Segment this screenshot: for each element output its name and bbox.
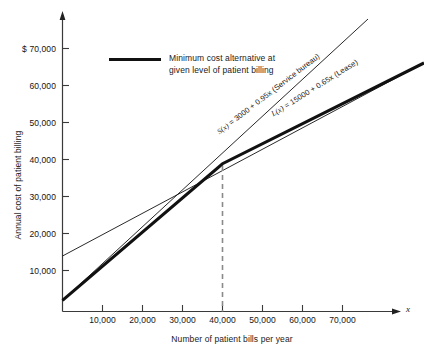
y-axis-ticks	[63, 49, 70, 271]
series-line-minimum-cost	[63, 63, 424, 300]
x-axis-arrowhead	[392, 309, 401, 315]
x-axis-variable-label: x	[406, 304, 410, 314]
x-tick-label: 50,000	[249, 315, 276, 325]
x-axis-title: Number of patient bills per year	[62, 334, 402, 344]
y-tick-label: 20,000	[0, 229, 56, 239]
y-tick-label: 10,000	[0, 266, 56, 276]
chart-legend: Minimum cost alternative at given level …	[109, 53, 275, 76]
x-tick-label: 20,000	[129, 315, 156, 325]
y-tick-label: 60,000	[0, 81, 56, 91]
y-tick-label: 40,000	[0, 155, 56, 165]
x-tick-label: 70,000	[329, 315, 356, 325]
x-tick-label: 10,000	[89, 315, 116, 325]
x-tick-label: 60,000	[289, 315, 316, 325]
legend-label-minimum-cost: Minimum cost alternative at given level …	[169, 53, 275, 76]
series-line-lease	[63, 63, 424, 256]
y-axis-arrowhead	[60, 11, 66, 20]
x-tick-label: 30,000	[169, 315, 196, 325]
y-axis-title: Annual cost of patient billing	[13, 105, 23, 265]
y-tick-label: 50,000	[0, 118, 56, 128]
x-tick-label: 40,000	[209, 315, 236, 325]
chart-figure: $ 70,000 60,000 50,000 40,000 30,000 20,…	[0, 0, 424, 357]
y-tick-label: 30,000	[0, 192, 56, 202]
legend-swatch-minimum-cost	[109, 58, 161, 61]
y-tick-label: $ 70,000	[0, 44, 56, 54]
